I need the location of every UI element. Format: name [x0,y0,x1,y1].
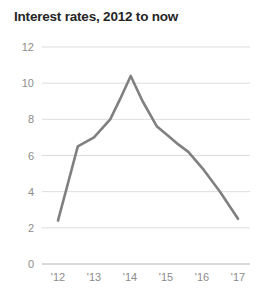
x-tick-label-13: '13 [87,271,101,283]
y-tick-label-10: 10 [22,77,34,89]
data-line-series-0 [58,76,238,221]
line-chart-svg: 024681012 '12'13'14'15'16'17 [0,0,260,289]
x-tick-label-17: '17 [231,271,245,283]
y-tick-label-4: 4 [28,186,34,198]
gridlines-group [42,47,250,264]
x-tick-label-14: '14 [123,271,137,283]
data-series-group [58,76,238,221]
y-tick-label-8: 8 [28,113,34,125]
y-tick-label-12: 12 [22,41,34,53]
chart-card: Interest rates, 2012 to now 024681012 '1… [0,0,260,289]
x-axis-tick-labels: '12'13'14'15'16'17 [51,271,245,283]
y-tick-label-6: 6 [28,150,34,162]
y-tick-label-2: 2 [28,222,34,234]
x-tick-label-15: '15 [159,271,173,283]
y-axis-tick-labels: 024681012 [22,41,34,270]
x-tick-label-12: '12 [51,271,65,283]
x-tick-label-16: '16 [195,271,209,283]
plot-area: 024681012 '12'13'14'15'16'17 [0,0,260,289]
y-tick-label-0: 0 [28,258,34,270]
